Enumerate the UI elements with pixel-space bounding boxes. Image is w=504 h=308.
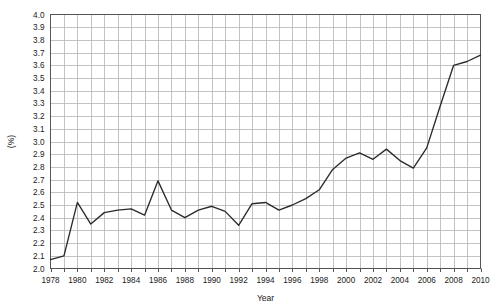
- x-tick-label: 1978: [41, 276, 60, 285]
- y-axis-tick-labels: 2.02.12.22.32.42.52.62.72.82.93.03.13.23…: [33, 11, 45, 274]
- y-tick-label: 3.7: [33, 49, 45, 58]
- y-tick-label: 4.0: [33, 11, 45, 20]
- y-tick-label: 3.9: [33, 23, 45, 32]
- y-tick-label: 2.8: [33, 163, 45, 172]
- chart-canvas: 2.02.12.22.32.42.52.62.72.82.93.03.13.23…: [0, 0, 504, 308]
- x-tick-label: 1982: [95, 276, 114, 285]
- x-tick-label: 2000: [337, 276, 356, 285]
- y-axis-title: (%): [6, 135, 16, 148]
- x-tick-label: 2002: [364, 276, 383, 285]
- x-tick-label: 1986: [149, 276, 168, 285]
- y-tick-label: 3.2: [33, 112, 45, 121]
- y-tick-label: 2.4: [33, 214, 45, 223]
- x-tick-label: 1994: [256, 276, 275, 285]
- y-tick-label: 2.3: [33, 226, 45, 235]
- y-tick-label: 3.8: [33, 36, 45, 45]
- y-tick-label: 2.9: [33, 150, 45, 159]
- y-tick-label: 3.5: [33, 74, 45, 83]
- y-tick-label: 2.5: [33, 201, 45, 210]
- y-tick-label: 2.1: [33, 252, 45, 261]
- axis-ticks: [52, 269, 482, 273]
- x-axis-tick-labels: 1978198019821984198619881990199219941996…: [41, 276, 490, 285]
- y-tick-label: 2.0: [33, 265, 45, 274]
- x-axis-title: Year: [257, 293, 274, 303]
- line-chart: 2.02.12.22.32.42.52.62.72.82.93.03.13.23…: [0, 0, 504, 308]
- x-tick-label: 1990: [203, 276, 222, 285]
- x-tick-label: 2010: [471, 276, 490, 285]
- x-tick-label: 1988: [176, 276, 195, 285]
- x-tick-label: 2006: [418, 276, 437, 285]
- y-tick-label: 2.7: [33, 176, 45, 185]
- y-tick-label: 3.1: [33, 125, 45, 134]
- x-tick-label: 2004: [391, 276, 410, 285]
- x-tick-label: 1992: [230, 276, 249, 285]
- x-tick-label: 1980: [68, 276, 87, 285]
- y-tick-label: 2.2: [33, 239, 45, 248]
- x-tick-label: 1996: [283, 276, 302, 285]
- x-tick-label: 1998: [310, 276, 329, 285]
- x-tick-label: 2008: [445, 276, 464, 285]
- y-tick-label: 2.6: [33, 188, 45, 197]
- y-tick-label: 3.4: [33, 87, 45, 96]
- y-tick-label: 3.6: [33, 61, 45, 70]
- x-tick-label: 1984: [122, 276, 141, 285]
- y-tick-label: 3.3: [33, 99, 45, 108]
- y-tick-label: 3.0: [33, 138, 45, 147]
